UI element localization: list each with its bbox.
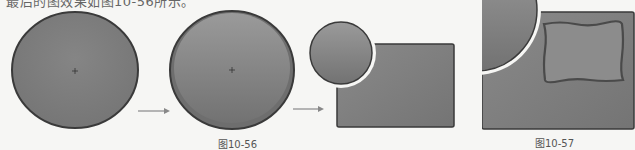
circle-shape-step-1 [12, 12, 138, 128]
circle-shape-step-2 [170, 11, 294, 129]
figure-canvas [0, 0, 635, 150]
wavy-inner-frame [544, 21, 623, 82]
figure-caption-10-57: 图10-57 [535, 135, 574, 150]
figure-caption-10-56: 图10-56 [218, 136, 257, 150]
arrow-right-icon [293, 106, 324, 112]
circle-over-rectangle-step-3 [306, 18, 454, 127]
arrow-right-icon [138, 108, 170, 114]
